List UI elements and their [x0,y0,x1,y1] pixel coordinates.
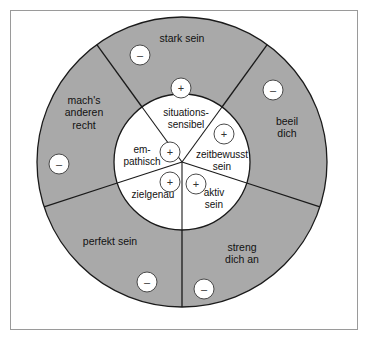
plus-icon-zielgenau: + [167,177,173,188]
minus-icon-stark-sein: – [137,50,143,61]
minus-icon-streng-dich-an: – [201,284,207,295]
minus-icon-machs-anderen-recht: – [56,159,62,170]
plus-icon-empathisch: + [167,147,173,158]
plus-icon-zeitbewusst-sein: + [221,129,227,140]
plus-icon-situationssensibel: + [178,83,184,94]
minus-icon-beeil-dich: – [270,85,276,96]
wheel-graphic [0,0,369,342]
plus-icon-aktiv-sein: + [193,179,199,190]
diagram-figure: stark sein beeil dich streng dich an per… [0,0,369,342]
minus-icon-perfekt-sein: – [144,277,150,288]
